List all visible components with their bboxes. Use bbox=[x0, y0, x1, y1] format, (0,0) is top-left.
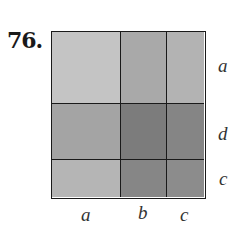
problem-number: 76. bbox=[7, 27, 42, 53]
area-model-grid bbox=[51, 31, 206, 199]
area-cell-a-b bbox=[121, 32, 167, 104]
column-label-c: c bbox=[180, 205, 188, 224]
row-label-d: d bbox=[218, 124, 228, 143]
area-cell-c-c bbox=[167, 160, 204, 197]
column-label-b: b bbox=[138, 203, 148, 222]
area-cell-c-b bbox=[121, 160, 167, 197]
area-cell-d-a bbox=[52, 104, 121, 160]
area-cell-a-c bbox=[167, 32, 204, 104]
area-cell-d-b bbox=[121, 104, 167, 160]
row-label-c: c bbox=[219, 169, 227, 188]
area-cell-a-a bbox=[52, 32, 121, 104]
row-label-a: a bbox=[218, 56, 228, 75]
area-cell-c-a bbox=[52, 160, 121, 197]
area-cell-d-c bbox=[167, 104, 204, 160]
column-label-a: a bbox=[81, 205, 91, 224]
